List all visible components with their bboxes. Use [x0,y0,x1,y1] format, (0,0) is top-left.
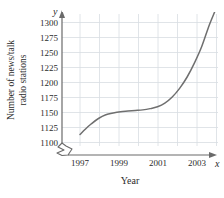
grid-lines [62,14,218,146]
y-axis [59,10,65,143]
y-tick-label: 1150 [40,108,58,118]
y-axis-title: Number of news/talk radio stations [6,40,28,120]
x-axis-title: Year [121,175,140,186]
x-tick-label: 2003 [188,158,207,168]
y-tick-label: 1100 [40,138,58,148]
y-tick-label: 1175 [40,93,58,103]
y-tick-label: 1200 [40,78,59,88]
y-tick-label: 1275 [40,33,59,43]
y-axis-title-line1: Number of news/talk [6,40,16,120]
data-series-curve [80,12,215,135]
x-tick-label: 1999 [110,158,129,168]
y-tick-label: 1125 [40,123,58,133]
y-tick-label: 1300 [40,18,59,28]
y-tick-label: 1225 [40,63,59,73]
line-chart: 1300 1275 1250 1225 1200 1175 1150 1125 … [0,0,224,198]
y-tick-labels: 1300 1275 1250 1225 1200 1175 1150 1125 … [40,18,59,148]
x-tick-labels: 1997 1999 2001 2003 [71,158,207,168]
x-axis-variable-label: x [214,158,220,169]
y-axis-variable-label: y [52,6,58,17]
y-tick-label: 1250 [40,48,59,58]
axis-break-zigzag-icon [57,143,72,156]
x-tick-label: 2001 [149,158,167,168]
x-tick-label: 1997 [71,158,90,168]
y-axis-title-line2: radio stations [18,54,28,105]
plot-clip-mask-top [62,0,222,12]
chart-figure: 1300 1275 1250 1225 1200 1175 1150 1125 … [0,0,224,198]
